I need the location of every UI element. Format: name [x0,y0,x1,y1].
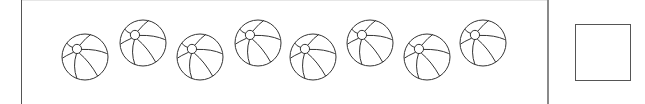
beach-ball-icon [460,20,506,66]
beach-ball-icon [290,34,336,80]
answer-divider [547,0,549,104]
beach-balls-group [0,0,545,104]
counting-worksheet [0,0,645,104]
beach-ball-icon [120,20,166,66]
answer-box[interactable] [575,24,631,81]
beach-ball-icon [177,34,223,80]
beach-ball-icon [62,34,108,80]
beach-ball-icon [235,20,281,66]
beach-ball-icon [347,20,393,66]
beach-ball-icon [404,34,450,80]
